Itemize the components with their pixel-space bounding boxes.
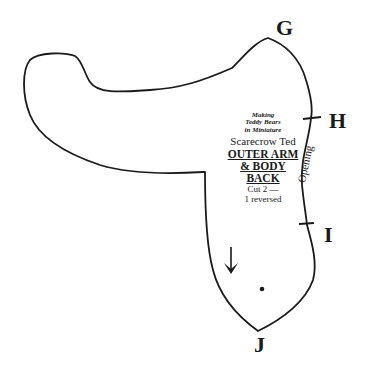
cut-instruction-line-2: 1 reversed [220,195,306,204]
placement-dot-icon [260,287,265,292]
point-label-j: J [254,334,265,356]
point-label-h: H [329,110,346,132]
point-label-i: I [324,224,333,246]
point-label-g: G [276,17,293,39]
pattern-info-block: Making Teddy Bears in Miniature Scarecro… [220,112,306,205]
piece-name-line-2: & BODY [220,160,306,172]
pattern-piece [0,0,366,390]
grainline-arrow-icon [224,247,238,274]
notch-i [299,223,314,224]
cut-instruction-line-1: Cut 2 — [220,185,306,194]
book-title-line-3: in Miniature [220,127,306,134]
piece-name-line-1: OUTER ARM [220,148,306,160]
bear-name: Scarecrow Ted [220,136,306,148]
piece-name-line-3: BACK [220,172,306,184]
